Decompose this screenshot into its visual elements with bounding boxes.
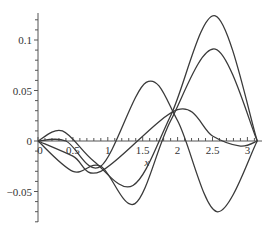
axes: 0.10.050−0.0500.511.522.53x: [7, 13, 262, 222]
y-tick-label: −0.05: [7, 186, 33, 198]
line-chart: 0.10.050−0.0500.511.522.53x: [0, 0, 270, 232]
x-tick-label: 1.5: [136, 144, 150, 156]
curves: [38, 16, 257, 212]
y-tick-label: 0.05: [13, 85, 33, 97]
y-tick-label: 0: [27, 135, 33, 147]
y-tick-label: 0.1: [18, 34, 32, 46]
x-tick-label: 2.5: [206, 144, 220, 156]
x-axis-label: x: [144, 156, 150, 168]
series-line-curve-2: [38, 49, 257, 205]
x-tick-label: 2: [175, 144, 181, 156]
